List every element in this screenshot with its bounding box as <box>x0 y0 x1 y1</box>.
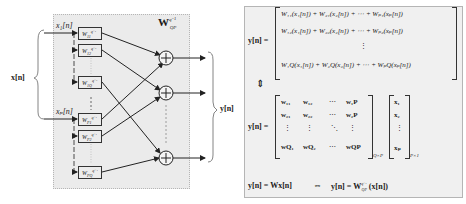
filter-box-pq: WPQq⁻¹ <box>78 166 102 179</box>
summer-2 <box>159 86 173 100</box>
output-brace <box>208 52 217 162</box>
filter-box-p2: WP2q⁻¹ <box>78 130 102 143</box>
eq1-row-q: W₁Q(x₁[n]) + W₂Q(x₂[n]) + ⋯ + WₚQ(xₚ[n]) <box>281 62 411 69</box>
eq1-row-vdots: ⋮ <box>360 43 367 50</box>
input-vector-label: x[n] <box>11 74 25 82</box>
input-label-x1: x₁[n] <box>56 22 73 30</box>
eq1-bracket-right <box>452 7 457 80</box>
vector-x-size: P×1 <box>410 153 419 158</box>
eq1-row-1: W₁₁(x₁[n]) + W₂₁(x₂[n]) + ⋯ + Wₚ₁(xₚ[n]) <box>281 11 403 18</box>
eq1-lhs: y[n] = <box>248 37 268 45</box>
filter-box-11: W11q⁻¹ <box>78 27 102 40</box>
filter-box-p1: WP1q⁻¹ <box>78 113 102 126</box>
eq3-iff-arrow: ⇔ <box>313 181 322 190</box>
equivalence-arrow: ⇕ <box>256 79 264 89</box>
filter-box-1q: W1Qq⁻¹ <box>78 76 102 89</box>
system-title: Wq⁻¹QP <box>158 17 176 30</box>
eq2-lhs: y[n] = <box>248 123 268 131</box>
eq1-bracket-left <box>275 7 280 80</box>
vector-x-bracket-right <box>405 95 410 159</box>
output-vector-label: y[n] <box>220 105 234 113</box>
matrix-w-size: Q×P <box>373 153 383 158</box>
summer-q <box>159 151 173 165</box>
input-brace <box>34 30 44 119</box>
eq3-right: y[n] = Wq⁻¹QP (x[n]) <box>331 182 388 192</box>
matrix-w-bracket-left <box>275 95 280 159</box>
eq3-left: y[n] = Wx[n] <box>248 182 292 190</box>
filter-box-12: W12q⁻¹ <box>78 44 102 57</box>
summer-1 <box>159 51 173 65</box>
eq1-row-2: W₁₂(x₁[n]) + W₂₂(x₂[n]) + ⋯ + Wₚ₂(xₚ[n]) <box>281 28 403 35</box>
input-label-xp: xₚ[n] <box>56 108 73 116</box>
matrix-w-bracket-right <box>368 95 373 159</box>
